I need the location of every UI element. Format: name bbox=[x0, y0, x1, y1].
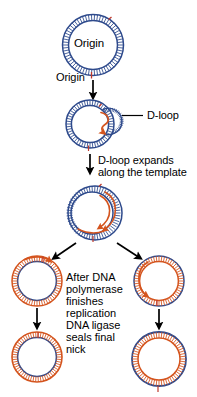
origin-label-inside: Origin bbox=[74, 38, 104, 50]
step-5-right-sealed bbox=[132, 332, 186, 392]
diagram-canvas: Origin Origin D-loop D-loop expands alon… bbox=[0, 0, 197, 397]
step-4-left-daughter bbox=[12, 256, 62, 306]
step-2-d-loop-formed bbox=[66, 100, 124, 151]
step-3-d-loop-expanded bbox=[67, 184, 123, 242]
arrow-fork-left bbox=[54, 243, 76, 258]
d-loop-expands-line1: D-loop expands bbox=[98, 155, 174, 167]
origin-label-below: Origin bbox=[56, 72, 85, 84]
d-loop-expands-line2: along the template bbox=[98, 167, 187, 179]
d-loop-label: D-loop bbox=[147, 110, 179, 122]
ligase-text-line7: nick bbox=[66, 344, 86, 356]
step-5-left-sealed bbox=[12, 332, 62, 382]
arrow-fork-right bbox=[117, 243, 140, 258]
step-4-right-daughter bbox=[134, 256, 184, 306]
